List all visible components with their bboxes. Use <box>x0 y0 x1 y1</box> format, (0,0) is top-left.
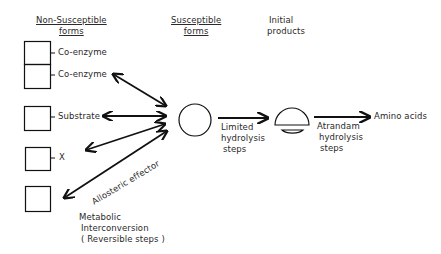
header-line-2: forms <box>36 26 107 37</box>
header-line-1: Non-Susceptible <box>36 15 107 26</box>
line-2: Interconversion <box>79 223 165 234</box>
binding-arrows <box>64 74 167 198</box>
line-3: ( Reversible steps ) <box>79 234 165 245</box>
line-3: steps <box>317 143 363 154</box>
limited-hydrolysis-label: Limited hydrolysis steps <box>221 122 265 155</box>
line-2: hydrolysis <box>221 133 265 144</box>
susceptible-form-circle <box>179 104 211 136</box>
susceptible-header: Susceptible forms <box>171 15 221 37</box>
metabolic-interconversion-label: Metabolic Interconversion ( Reversible s… <box>79 212 165 245</box>
header-line-1: Initial <box>267 15 305 26</box>
header-line-2: products <box>267 26 305 37</box>
coenzyme-arrow <box>113 74 166 106</box>
non-susceptible-header: Non-Susceptible forms <box>36 15 107 37</box>
line-1: Metabolic <box>79 212 165 223</box>
x-box <box>26 148 51 171</box>
substrate-label: Substrate <box>58 111 100 122</box>
substrate-box <box>25 107 51 131</box>
line-2: hydrolysis <box>317 132 363 143</box>
coenzyme-label-2: Co-enzyme <box>58 69 107 80</box>
line-1: Limited <box>221 122 265 133</box>
initial-products-header: Initial products <box>267 15 305 37</box>
amino-acids-label: Amino acids <box>374 111 427 122</box>
coenzyme-box-2 <box>25 65 51 89</box>
metabolic-box <box>26 187 51 212</box>
header-line-2: forms <box>171 26 221 37</box>
initial-products-shape <box>275 108 309 133</box>
coenzyme-label-1: Co-enzyme <box>58 47 107 58</box>
x-arrow <box>86 124 165 150</box>
line-1: Atrandam <box>317 121 363 132</box>
x-label: X <box>59 152 65 163</box>
header-line-1: Susceptible <box>171 15 221 26</box>
line-3: steps <box>221 144 265 155</box>
coenzyme-box-1 <box>25 42 51 65</box>
non-susceptible-boxes <box>25 42 56 212</box>
atrandam-hydrolysis-label: Atrandam hydrolysis steps <box>317 121 363 154</box>
